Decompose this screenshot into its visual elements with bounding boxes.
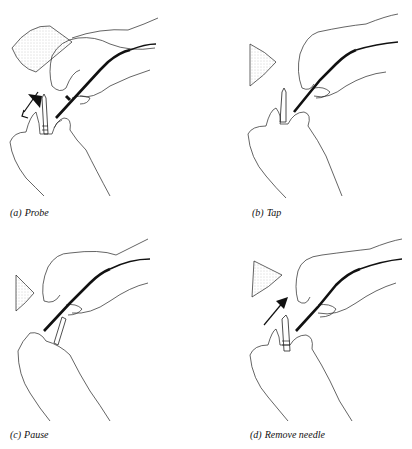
caption-label: (d) [250,429,262,440]
panel-c-pause: (c)Pause [0,225,206,449]
caption-title: Pause [24,429,48,440]
hands-illustration-pause [0,225,206,425]
caption-c: (c)Pause [10,429,49,440]
hands-illustration-remove-needle [206,225,412,425]
panel-b-tap: (b)Tap [206,0,412,224]
caption-label: (b) [252,207,264,218]
caption-label: (c) [10,429,21,440]
caption-a: (a)Probe [10,207,49,218]
caption-b: (b)Tap [252,207,281,218]
hands-illustration-probe [0,0,206,224]
caption-label: (a) [10,207,22,218]
caption-title: Probe [25,207,49,218]
caption-d: (d)Remove needle [250,429,325,440]
hands-illustration-tap [206,0,412,224]
panel-a-probe: (a)Probe [0,0,206,224]
caption-title: Tap [267,207,282,218]
caption-title: Remove needle [265,429,325,440]
panel-d-remove-needle: (d)Remove needle [206,225,412,449]
